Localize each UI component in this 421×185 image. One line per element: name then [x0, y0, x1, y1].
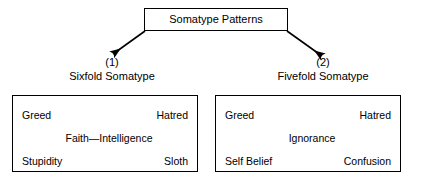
panel-cell-right: Hatred — [156, 109, 188, 121]
panel-row: Stupidity Sloth — [22, 155, 188, 167]
branch-title-1: Sixfold Somatype — [47, 69, 177, 83]
branch-number-2: (2) — [258, 56, 388, 69]
panel-cell-center: Faith—Intelligence — [66, 132, 153, 144]
panel-cell-center: Ignorance — [289, 132, 336, 144]
panel-row: Greed Hatred — [22, 109, 188, 121]
root-node-label: Somatype Patterns — [169, 14, 263, 25]
panel-cell-left: Stupidity — [22, 155, 62, 167]
arrow-to-branch-2 — [287, 31, 322, 56]
arrow-to-branch-1 — [113, 31, 145, 54]
panel-cell-right: Confusion — [344, 155, 391, 167]
panel-cell-left: Greed — [225, 109, 254, 121]
branch-caption-1: (1) Sixfold Somatype — [47, 56, 177, 83]
panel-cell-left: Greed — [22, 109, 51, 121]
branch-caption-2: (2) Fivefold Somatype — [258, 56, 388, 83]
panel-row: Self Belief Confusion — [225, 155, 391, 167]
branch-number-1: (1) — [47, 56, 177, 69]
branch-title-2: Fivefold Somatype — [258, 69, 388, 83]
somatype-patterns-diagram: Somatype Patterns (1) Sixfold Somatype (… — [0, 0, 421, 185]
panel-fivefold-somatype: Greed Hatred Ignorance Self Belief Confu… — [215, 95, 401, 172]
panel-row: Ignorance — [225, 132, 391, 144]
panel-cell-right: Hatred — [359, 109, 391, 121]
root-node-somatype-patterns: Somatype Patterns — [144, 8, 288, 31]
panel-sixfold-somatype: Greed Hatred Faith—Intelligence Stupidit… — [12, 95, 198, 172]
panel-row: Greed Hatred — [225, 109, 391, 121]
panel-cell-left: Self Belief — [225, 155, 272, 167]
panel-row: Faith—Intelligence — [22, 132, 188, 144]
panel-cell-right: Sloth — [164, 155, 188, 167]
